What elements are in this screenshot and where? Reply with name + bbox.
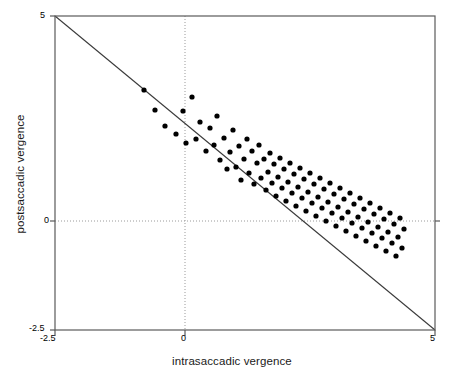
data-point [355,214,360,219]
data-point [277,155,282,160]
data-point [180,108,185,113]
data-point [397,215,402,220]
data-point [393,253,398,258]
data-point [238,177,243,182]
data-point [293,203,298,208]
data-point [395,234,400,239]
x-axis-label: intrasaccadic vergence [172,355,292,367]
data-point [230,127,235,132]
data-point [377,205,382,210]
data-point [379,235,384,240]
x-tick-label-left: -2.5 [40,333,56,343]
data-point [217,157,222,162]
data-point [323,218,328,223]
data-point [307,170,312,175]
data-point [313,213,318,218]
data-point [214,113,219,118]
data-point [321,186,326,191]
data-point [211,142,216,147]
y-tick-label-zero: 0 [44,215,49,225]
data-point [285,179,290,184]
data-point [256,142,261,147]
data-point [233,164,238,169]
x-tick-label-right: 5 [430,333,435,343]
data-point [361,206,366,211]
data-point [299,195,304,200]
data-point [291,171,296,176]
data-point [297,165,302,170]
data-point [305,189,310,194]
data-point [224,166,229,171]
data-point [281,166,286,171]
data-point [246,170,251,175]
data-point [373,243,378,248]
data-point [244,136,249,141]
data-point [189,94,194,99]
data-point [391,221,396,226]
data-point [173,131,178,136]
data-point [311,181,316,186]
data-point [275,174,280,179]
data-point [333,223,338,228]
figure-background [0,0,452,382]
data-point [363,238,368,243]
data-point [265,169,270,174]
data-point [227,149,232,154]
y-tick-label-top: 5 [40,10,45,20]
data-point [329,210,334,215]
data-point [389,240,394,245]
data-point [162,123,167,128]
data-point [269,180,274,185]
data-point [249,148,254,153]
data-point [331,191,336,196]
data-point [381,216,386,221]
data-point [279,185,284,190]
data-point [236,143,241,148]
data-point [315,194,320,199]
data-point [345,209,350,214]
data-point [343,228,348,233]
data-point [295,184,300,189]
data-point [371,211,376,216]
data-point [325,199,330,204]
data-point [401,226,406,231]
data-point [267,150,272,155]
data-point [335,204,340,209]
data-point [251,181,256,186]
y-axis-label: postsaccadic vergence [14,114,26,234]
x-tick-label-zero: 0 [181,333,186,343]
data-point [385,229,390,234]
data-point [387,210,392,215]
data-point [152,107,157,112]
data-point [359,225,364,230]
data-point [383,248,388,253]
data-point [258,175,263,180]
data-point [317,175,322,180]
data-point [289,190,294,195]
scatter-plot-figure [0,0,452,382]
data-point [349,220,354,225]
data-point [183,140,188,145]
data-point [365,219,370,224]
data-point [339,215,344,220]
data-point [287,160,292,165]
data-point [337,185,342,190]
data-point [141,87,146,92]
data-point [254,160,259,165]
data-point [261,156,266,161]
data-point [319,205,324,210]
data-point [369,230,374,235]
data-point [273,193,278,198]
data-point [357,195,362,200]
data-point [221,135,226,140]
data-point [353,233,358,238]
data-point [197,119,202,124]
data-point [351,201,356,206]
data-point [399,245,404,250]
data-point [347,190,352,195]
data-point [327,180,332,185]
data-point [341,196,346,201]
data-point [193,136,198,141]
data-point [203,148,208,153]
data-point [271,161,276,166]
